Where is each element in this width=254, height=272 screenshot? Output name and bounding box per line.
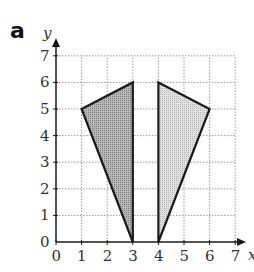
x-tick-label: 1: [77, 247, 87, 265]
y-tick-label: 2: [40, 180, 50, 198]
grid-lines: [56, 56, 235, 242]
y-axis-label: y: [42, 24, 52, 42]
y-tick-label: 5: [40, 100, 50, 118]
x-tick-label: 3: [128, 247, 138, 265]
x-axis-label: x: [248, 246, 254, 264]
x-tick-label: 5: [180, 247, 190, 265]
y-tick-label: 4: [40, 127, 50, 145]
x-tick-label: 0: [52, 247, 62, 265]
right-triangle: [158, 82, 209, 242]
x-axis-arrow-icon: [237, 238, 246, 246]
y-tick-label: 7: [40, 47, 50, 65]
x-tick-label: 7: [231, 247, 241, 265]
x-tick-label: 2: [103, 247, 113, 265]
y-tick-label: 1: [40, 206, 50, 224]
y-tick-label: 3: [40, 153, 50, 171]
coordinate-grid-diagram: 0123456701234567 y x: [0, 0, 254, 272]
y-tick-label: 6: [40, 73, 50, 91]
shapes: [82, 82, 210, 242]
x-tick-label: 6: [205, 247, 215, 265]
x-tick-label: 4: [154, 247, 164, 265]
y-axis-arrow-icon: [52, 38, 60, 47]
y-tick-label: 0: [40, 233, 50, 251]
axes: [56, 46, 240, 242]
tick-labels: 0123456701234567: [40, 47, 240, 265]
